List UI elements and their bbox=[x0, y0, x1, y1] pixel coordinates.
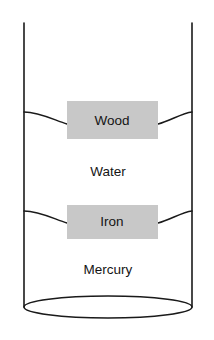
diagram-canvas: Wood Iron Water Mercury bbox=[0, 0, 214, 340]
wood-block-label: Wood bbox=[94, 113, 129, 128]
liquid-layers-diagram: Wood Iron Water Mercury bbox=[0, 0, 214, 340]
water-surface-left bbox=[24, 112, 67, 124]
water-layer-label: Water bbox=[90, 164, 126, 179]
mercury-surface-left bbox=[24, 211, 67, 223]
mercury-layer-label: Mercury bbox=[84, 262, 133, 277]
mercury-surface-right bbox=[158, 211, 192, 223]
cylinder-bottom-ellipse bbox=[24, 296, 192, 318]
iron-block-label: Iron bbox=[100, 214, 123, 229]
water-surface-right bbox=[158, 112, 192, 124]
